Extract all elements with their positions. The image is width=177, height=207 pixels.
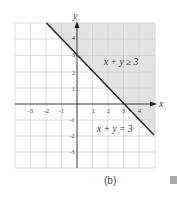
y-axis-label: y (72, 10, 78, 21)
inequality-label: x + y ≥ 3 (103, 57, 139, 67)
y-tick-label: -2 (70, 133, 75, 139)
x-tick-label: 4 (138, 108, 141, 114)
boundary-equation-label: x + y = 3 (96, 124, 133, 134)
y-tick-label: -3 (70, 149, 75, 155)
x-tick-label: -2 (44, 108, 49, 114)
y-tick-label: 3 (72, 52, 75, 58)
x-tick-label: 1 (92, 108, 95, 114)
y-tick-label: 1 (72, 86, 75, 92)
x-tick-label: 3 (122, 108, 125, 114)
x-axis-label: x (158, 98, 164, 109)
inequality-graph: x y -3 -2 -1 1 2 3 4 4 3 2 1 -1 -2 -3 x … (0, 0, 177, 207)
y-tick-label: 4 (72, 35, 75, 41)
figure-caption: (b) (104, 175, 116, 186)
y-tick-label: -1 (70, 117, 75, 123)
x-tick-label: 2 (107, 108, 110, 114)
end-of-proof-square-icon (170, 176, 177, 184)
y-tick-label: 2 (72, 70, 75, 76)
x-tick-label: -1 (59, 108, 64, 114)
x-tick-label: -3 (28, 108, 33, 114)
